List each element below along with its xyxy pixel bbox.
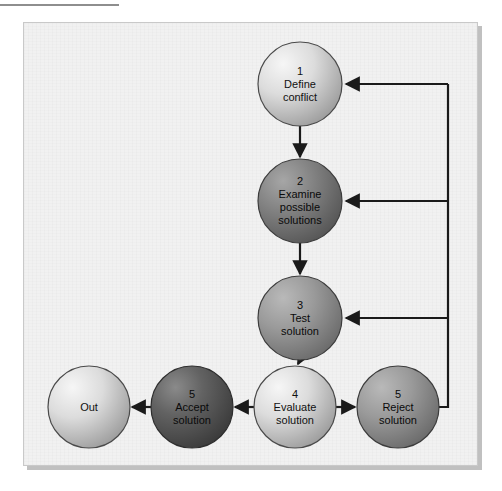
node-out[interactable] — [48, 366, 130, 448]
node-evaluate-solution[interactable] — [254, 366, 336, 448]
node-test-solution[interactable] — [258, 276, 342, 360]
edge-feedback-bus-trunk — [439, 84, 448, 407]
edge-test-to-evaluate — [298, 360, 300, 364]
node-examine-solutions[interactable] — [258, 159, 342, 243]
node-layer — [48, 42, 439, 448]
node-reject-solution[interactable] — [357, 366, 439, 448]
node-define-conflict[interactable] — [258, 42, 342, 126]
node-accept-solution[interactable] — [151, 366, 233, 448]
flowchart-diagram — [0, 0, 502, 491]
